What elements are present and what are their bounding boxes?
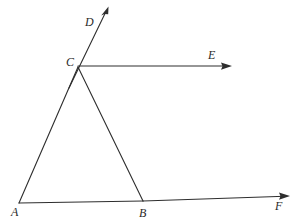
segment-cb [78,67,143,201]
label-c: C [66,55,75,69]
label-d: D [84,15,94,29]
label-f: F [274,199,283,213]
arrowhead-e-icon [221,63,232,70]
label-e: E [207,48,216,62]
geometry-figure: A B C D E F [0,0,301,223]
figure-canvas: A B C D E F [0,0,301,223]
label-a: A [10,205,19,219]
ray-bf [143,196,285,201]
segment-ab [19,201,143,203]
label-b: B [139,206,147,220]
